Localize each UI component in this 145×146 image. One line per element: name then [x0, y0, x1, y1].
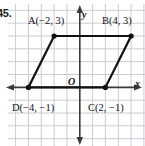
vertex-label-d: D(−4, −1): [12, 102, 54, 113]
vertex-point-a: [52, 33, 57, 38]
vertex-label-c: C(2, −1): [88, 102, 124, 113]
y-axis-arrow-negative: [77, 137, 83, 145]
coordinate-plane-figure: 45.: [0, 0, 145, 146]
problem-number: 45.: [0, 7, 11, 19]
vertex-point-c: [103, 85, 108, 90]
vertex-label-b: B(4, 3): [102, 15, 132, 26]
x-axis-arrow-negative: [6, 84, 14, 90]
y-axis-label: y: [82, 9, 86, 20]
origin-label: O: [68, 76, 75, 87]
vertex-point-d: [26, 85, 31, 90]
vertex-label-a: A(−2, 3): [28, 15, 64, 26]
x-axis-label: x: [135, 78, 140, 89]
vertex-point-b: [129, 33, 134, 38]
